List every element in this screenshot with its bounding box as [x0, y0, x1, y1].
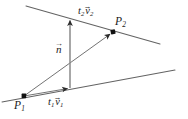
label-p1: P1	[14, 100, 25, 112]
label-t2-v2: t2 →v2	[78, 6, 93, 18]
label-n-vector: →n	[56, 44, 62, 55]
vector-t2v2	[24, 34, 110, 96]
label-p2: P2	[115, 16, 126, 28]
line-through-p1	[2, 70, 175, 102]
label-t1-v1: t1 →v1	[48, 97, 63, 109]
point-p1	[22, 94, 27, 99]
vector-diagram-figure: P1 P2 →n t1 →v1 t2 →v2	[0, 0, 188, 119]
point-p2	[110, 29, 115, 34]
figure-canvas	[0, 0, 188, 119]
